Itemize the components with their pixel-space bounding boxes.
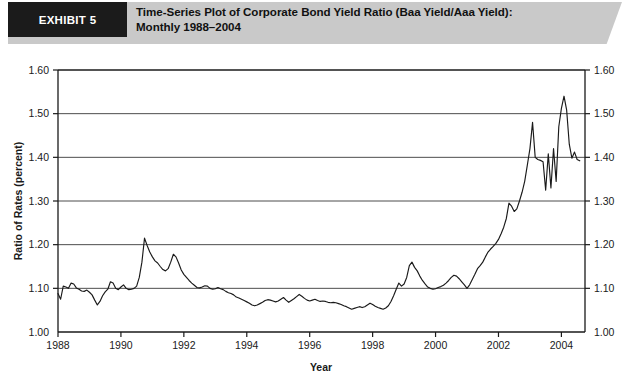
year-tick-label: 2004 [550, 339, 574, 351]
left-tick-label: 1.40 [29, 151, 50, 163]
exhibit-number-badge: EXHIBIT 5 [8, 2, 127, 37]
right-tick-label: 1.20 [594, 238, 615, 250]
right-tick-label: 1.30 [594, 195, 615, 207]
left-axis-tick-labels: 1.001.101.201.301.401.501.60 [29, 64, 50, 338]
left-tick-label: 1.50 [29, 107, 50, 119]
right-tick-label: 1.50 [594, 107, 615, 119]
right-axis-ticks [585, 70, 590, 288]
y-axis-title: Ratio of Rates (percent) [12, 142, 24, 260]
year-tick-label: 2002 [487, 339, 511, 351]
left-tick-label: 1.20 [29, 238, 50, 250]
left-axis-ticks [53, 70, 58, 288]
year-tick-label: 1990 [109, 339, 133, 351]
year-axis-tick-labels: 198819901992199419961998200020022004 [46, 339, 573, 351]
left-tick-label: 1.60 [29, 64, 50, 76]
right-tick-label: 1.10 [594, 282, 615, 294]
left-tick-label: 1.00 [29, 326, 50, 338]
exhibit-title-line-1: Time-Series Plot of Corporate Bond Yield… [136, 5, 512, 18]
left-tick-label: 1.10 [29, 282, 50, 294]
year-tick-label: 1998 [361, 339, 385, 351]
year-tick-label: 1988 [46, 339, 70, 351]
exhibit-title-line-2: Monthly 1988–2004 [136, 20, 606, 35]
exhibit-figure: EXHIBIT 5 Time-Series Plot of Corporate … [0, 0, 637, 392]
page-footnote [6, 383, 426, 392]
right-axis-tick-labels: 1.001.101.201.301.401.501.60 [594, 64, 615, 338]
left-tick-label: 1.30 [29, 195, 50, 207]
time-series-chart: 1.001.101.201.301.401.501.60 1.001.101.2… [0, 46, 637, 392]
exhibit-number-label: EXHIBIT 5 [39, 14, 97, 26]
exhibit-title: Time-Series Plot of Corporate Bond Yield… [136, 5, 606, 34]
x-axis-title: Year [310, 361, 332, 373]
year-tick-label: 1992 [172, 339, 196, 351]
exhibit-header: EXHIBIT 5 Time-Series Plot of Corporate … [0, 0, 637, 46]
right-tick-label: 1.00 [594, 326, 615, 338]
year-axis-ticks [58, 332, 561, 337]
right-tick-label: 1.60 [594, 64, 615, 76]
year-tick-label: 1994 [235, 339, 259, 351]
right-tick-label: 1.40 [594, 151, 615, 163]
year-tick-label: 1996 [298, 339, 322, 351]
chart-container: 1.001.101.201.301.401.501.60 1.001.101.2… [0, 46, 637, 392]
year-tick-label: 2000 [424, 339, 448, 351]
